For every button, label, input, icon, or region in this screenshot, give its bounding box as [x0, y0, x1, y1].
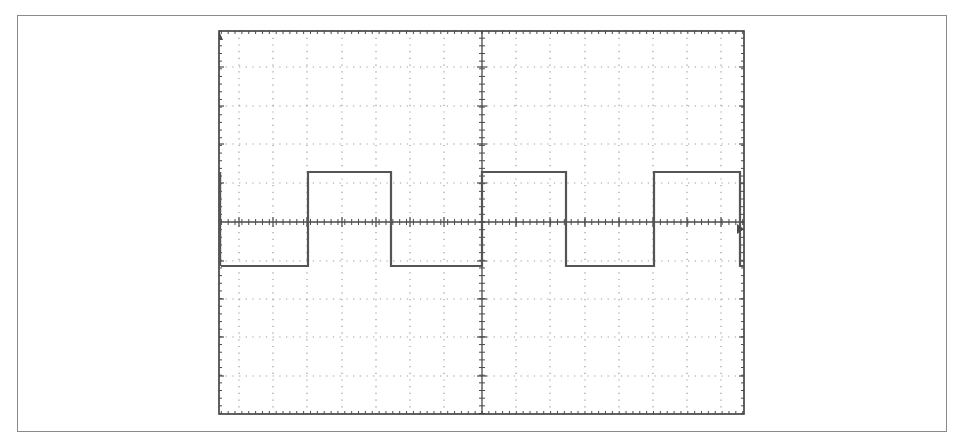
- oscilloscope-screen: [0, 0, 962, 442]
- square-wave-trace: [221, 172, 744, 266]
